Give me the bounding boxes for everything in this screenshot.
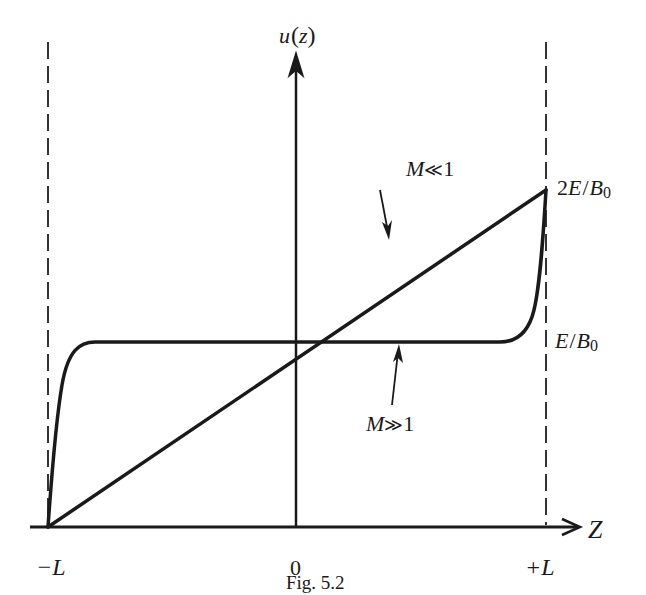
x-axis bbox=[30, 519, 580, 535]
pointer-low-m bbox=[380, 190, 392, 240]
x-tick-left: −L bbox=[36, 554, 66, 580]
diagram-canvas: u(z) Z −L 0 +L 2E/B0 E/B0 M≪1 M≫1 Fig. 5… bbox=[0, 0, 646, 595]
curve-label-low-m: M≪1 bbox=[405, 156, 454, 181]
y-axis-label: u(z) bbox=[279, 22, 316, 48]
level-label-upper: 2E/B0 bbox=[557, 175, 611, 201]
figure: u(z) Z −L 0 +L 2E/B0 E/B0 M≪1 M≫1 Fig. 5… bbox=[0, 0, 646, 595]
x-axis-label: Z bbox=[588, 515, 603, 544]
curve-label-high-m: M≫1 bbox=[365, 411, 414, 436]
pointer-high-m bbox=[392, 344, 403, 405]
level-label-middle: E/B0 bbox=[554, 328, 598, 354]
figure-caption: Fig. 5.2 bbox=[286, 572, 345, 593]
y-axis bbox=[289, 53, 303, 527]
x-tick-right: +L bbox=[525, 554, 555, 580]
pointer-high-m-arrowhead-icon bbox=[393, 344, 403, 363]
